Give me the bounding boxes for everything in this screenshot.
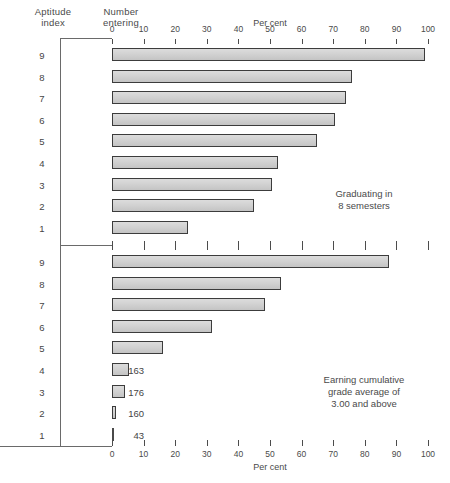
axis-tick-label-100: 100 [421,449,435,459]
axis-tick-20 [175,440,176,446]
axis-title-bottom: Per cent [210,462,330,472]
axis-tick-30 [207,39,208,44]
axis-tick-70 [333,241,334,250]
axis-tick-label-30: 30 [202,449,211,459]
bar-track [112,277,428,292]
axis-tick-0 [112,440,113,446]
axis-tick-label-50: 50 [265,449,274,459]
axis-tick-40 [238,440,239,446]
aptitude-index-label: 9 [22,50,62,61]
panel-bottom-baseline [0,446,112,447]
axis-tick-label-70: 70 [328,449,337,459]
panel-bottom-rule [60,245,112,246]
bar [112,277,281,290]
aptitude-index-label: 4 [22,365,62,376]
bar [112,320,212,333]
aptitude-index-label: 5 [22,343,62,354]
chart-row: 916 [0,46,450,68]
axis-tick-90 [396,241,397,250]
axis-tick-label-20: 20 [170,449,179,459]
chart-row: 4163 [0,154,450,176]
bar-track [112,255,428,270]
aptitude-index-label: 8 [22,279,62,290]
bar-track [112,48,428,63]
axis-tick-0 [112,39,113,44]
bar [112,48,425,61]
axis-tick-label-60: 60 [297,24,306,34]
bar-track [112,221,428,236]
axis-tick-30 [207,440,208,446]
bar [112,363,129,376]
bar [112,298,265,311]
bar [112,91,346,104]
axis-tick-100 [428,241,429,250]
axis-tick-60 [302,39,303,44]
axis-tick-10 [144,440,145,446]
bar [112,156,278,169]
panel-top-rule [60,38,112,39]
bar [112,134,317,147]
axis-tick-100 [428,39,429,44]
axis-tick-10 [144,39,145,44]
bar [112,406,116,419]
axis-tick-50 [270,440,271,446]
aptitude-index-label: 4 [22,158,62,169]
axis-tick-40 [238,39,239,44]
axis-bottom: 0102030405060708090100 [112,434,428,460]
annotation-graduating: Graduating in 8 semesters [296,188,432,212]
aptitude-index-label: 9 [22,257,62,268]
axis-tick-label-40: 40 [234,449,243,459]
axis-tick-70 [333,39,334,44]
bar-track [112,298,428,313]
bar [112,113,335,126]
axis-tick-60 [302,440,303,446]
aptitude-index-label: 3 [22,180,62,191]
bar [112,255,389,268]
bar-track [112,113,428,128]
column-header-aptitude-index: Aptitude index [22,6,84,28]
axis-tick-label-100: 100 [421,24,435,34]
axis-tick-10 [144,241,145,250]
axis-top: 0102030405060708090100 [112,24,428,44]
aptitude-index-label: 8 [22,72,62,83]
axis-tick-20 [175,241,176,250]
axis-tick-50 [270,39,271,44]
bar-track [112,320,428,335]
panel-graduating: 9168307446775122416331762160143 [0,46,450,242]
bar [112,199,254,212]
bar-track [112,134,428,149]
bar [112,341,163,354]
axis-tick-80 [365,39,366,44]
bar [112,221,188,234]
axis-divider [112,238,428,252]
aptitude-index-label: 5 [22,136,62,147]
bar [112,385,125,398]
aptitude-index-label: 7 [22,300,62,311]
axis-tick-100 [428,440,429,446]
axis-tick-90 [396,440,397,446]
axis-tick-20 [175,39,176,44]
axis-tick-30 [207,241,208,250]
aptitude-index-label: 1 [22,430,62,441]
axis-tick-0 [112,241,113,250]
axis-tick-label-80: 80 [360,24,369,34]
axis-tick-90 [396,39,397,44]
axis-tick-label-20: 20 [170,24,179,34]
bar-track [112,70,428,85]
chart-row: 677 [0,318,450,340]
aptitude-index-label: 2 [22,408,62,419]
aptitude-index-label: 6 [22,322,62,333]
axis-tick-label-90: 90 [392,24,401,34]
axis-tick-80 [365,241,366,250]
chart-row: 744 [0,296,450,318]
aptitude-index-label: 3 [22,387,62,398]
axis-tick-label-10: 10 [139,449,148,459]
axis-tick-60 [302,241,303,250]
bar [112,70,352,83]
bar-track [112,91,428,106]
bar [112,178,272,191]
chart-row: 830 [0,275,450,297]
panel-grade-average: 9168307446775122416331762160143 [0,253,450,443]
axis-tick-label-10: 10 [139,24,148,34]
chart-row: 830 [0,68,450,90]
